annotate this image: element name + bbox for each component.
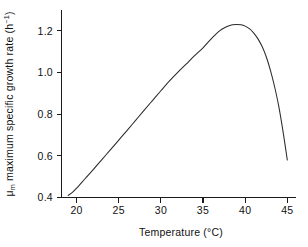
y-tick-label: 0.8	[38, 108, 54, 120]
y-tick-label: 1.2	[38, 25, 54, 37]
y-tick-label: 0.4	[38, 191, 54, 203]
x-tick-label: 25	[113, 204, 125, 216]
x-axis-label: Temperature (°C)	[139, 226, 223, 238]
x-tick-label: 35	[197, 204, 209, 216]
y-axis-label-text: maximum specific growth rate (h	[3, 24, 15, 184]
x-tick-label: 30	[155, 204, 167, 216]
y-axis-label-exponent: −1	[2, 15, 11, 24]
y-tick-label: 1.0	[38, 66, 54, 78]
y-axis-label: μm maximum specific growth rate (h−1)	[2, 11, 17, 196]
x-tick-label: 20	[70, 204, 82, 216]
x-tick-label: 40	[239, 204, 251, 216]
x-tick-label: 45	[281, 204, 293, 216]
figure-canvas: 0.4 0.6 0.8 1.0 1.2 20 25 30 35 40 45 Te	[0, 0, 308, 247]
growth-rate-vs-temperature-chart: 0.4 0.6 0.8 1.0 1.2 20 25 30 35 40 45 Te	[0, 0, 308, 247]
y-axis-label-tail: )	[3, 11, 15, 15]
y-tick-label: 0.6	[38, 150, 54, 162]
